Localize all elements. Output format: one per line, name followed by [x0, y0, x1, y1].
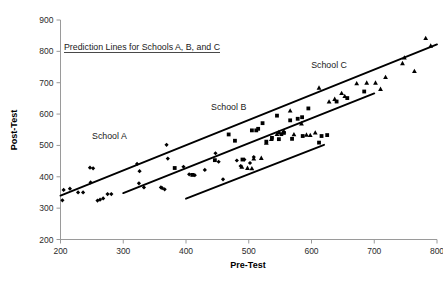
data-point: [68, 187, 72, 191]
data-point: [292, 132, 297, 136]
x-tick-label: 300: [116, 246, 130, 256]
x-axis: 200300400500600700800 Pre-Test: [53, 240, 443, 271]
data-point: [290, 137, 294, 141]
data-point: [412, 69, 417, 73]
data-point: [308, 133, 313, 137]
data-point: [105, 192, 109, 196]
data-point: [81, 190, 85, 194]
y-tick-label: 900: [39, 15, 53, 25]
data-point: [339, 91, 344, 95]
data-point: [76, 190, 80, 194]
x-tick-label: 700: [367, 246, 381, 256]
y-tick-label: 400: [39, 172, 53, 182]
data-point: [383, 75, 388, 79]
data-point: [249, 166, 254, 170]
y-tick-label: 700: [39, 78, 53, 88]
data-point: [217, 160, 221, 164]
y-axis-tick-labels: 200300400500600700800900: [39, 15, 53, 245]
x-axis-tick-labels: 200300400500600700800: [53, 246, 443, 256]
data-point-layer: [60, 36, 433, 203]
data-point: [306, 107, 310, 111]
x-tick-label: 600: [304, 246, 318, 256]
data-point: [288, 108, 293, 112]
data-point: [300, 115, 304, 119]
data-point: [261, 121, 265, 125]
data-point: [213, 158, 217, 162]
data-point: [354, 81, 359, 85]
y-axis-title: Post-Test: [9, 110, 19, 150]
data-point: [277, 137, 281, 141]
data-point: [241, 158, 245, 162]
y-tick-label: 800: [39, 46, 53, 56]
data-point: [88, 166, 92, 170]
chart-title: Prediction Lines for Schools A, B, and C: [64, 42, 221, 52]
data-point: [296, 117, 300, 121]
prediction-line-c: [186, 145, 324, 199]
series-school-b: [173, 90, 366, 177]
data-point: [304, 132, 309, 136]
chart-canvas: 200300400500600700800900 Post-Test 20030…: [0, 0, 443, 285]
data-point: [203, 168, 207, 172]
data-point: [325, 133, 329, 137]
data-point: [423, 36, 428, 40]
data-point: [248, 161, 252, 165]
y-axis: 200300400500600700800900 Post-Test: [9, 15, 61, 245]
annotation-school-a: School A: [92, 131, 127, 141]
y-tick-label: 300: [39, 203, 53, 213]
x-axis-ticks: [61, 240, 438, 244]
data-point: [400, 61, 405, 65]
prediction-line-a: [61, 44, 438, 195]
data-point: [235, 158, 239, 162]
data-point: [137, 169, 141, 173]
y-axis-ticks: [57, 20, 61, 240]
data-point: [137, 181, 141, 185]
data-point: [320, 134, 324, 138]
data-point: [233, 139, 237, 143]
scatter-chart: 200300400500600700800900 Post-Test 20030…: [0, 0, 443, 285]
data-point: [166, 156, 170, 160]
data-point: [327, 99, 332, 103]
prediction-line-layer: [61, 44, 438, 198]
data-point: [301, 134, 305, 138]
data-point: [364, 80, 369, 84]
data-point: [317, 85, 322, 89]
data-point: [288, 118, 292, 122]
data-point: [190, 173, 194, 177]
data-point: [275, 114, 279, 118]
data-point: [332, 97, 337, 101]
annotation-school-c: School C: [311, 60, 347, 70]
data-point: [164, 143, 168, 147]
x-tick-label: 800: [430, 246, 443, 256]
x-tick-label: 500: [242, 246, 256, 256]
data-point: [109, 192, 113, 196]
data-point: [173, 166, 177, 170]
y-tick-label: 200: [39, 235, 53, 245]
y-tick-label: 500: [39, 140, 53, 150]
x-tick-label: 400: [179, 246, 193, 256]
annotation-school-b: School B: [211, 102, 246, 112]
data-point: [91, 166, 95, 170]
x-axis-title: Pre-Test: [230, 260, 265, 270]
data-point: [256, 127, 260, 131]
data-point: [317, 141, 321, 145]
data-point: [213, 151, 217, 155]
y-tick-label: 600: [39, 109, 53, 119]
series-annotation-layer: School ASchool BSchool C: [92, 60, 347, 141]
data-point: [378, 87, 383, 91]
data-point: [245, 166, 250, 170]
data-point: [362, 90, 366, 94]
data-point: [313, 130, 318, 134]
prediction-line-b: [123, 93, 374, 193]
data-point: [373, 80, 378, 84]
data-point: [259, 156, 264, 160]
data-point: [250, 128, 254, 132]
data-point: [221, 177, 225, 181]
x-tick-label: 200: [53, 246, 67, 256]
data-point: [227, 133, 231, 137]
data-point: [62, 188, 66, 192]
chart-title-group: Prediction Lines for Schools A, B, and C: [64, 42, 221, 53]
